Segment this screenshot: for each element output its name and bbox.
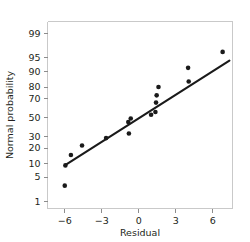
x-axis-tick-label: −3 <box>95 215 109 226</box>
plot-canvas: 15102030507080909599 −6−3036 Residual No… <box>0 0 250 242</box>
data-point <box>80 143 85 148</box>
x-axis-tick-label: 6 <box>210 215 216 226</box>
x-axis-tick-label: −6 <box>58 215 72 226</box>
y-axis-tick-label: 80 <box>28 81 40 92</box>
y-axis-tick-label: 50 <box>28 112 40 123</box>
data-point <box>128 116 133 121</box>
data-point <box>149 113 154 118</box>
normal-probability-plot-figure: 15102030507080909599 −6−3036 Residual No… <box>0 0 250 242</box>
data-point <box>69 153 74 158</box>
data-point <box>186 66 191 71</box>
y-axis-tick-label: 5 <box>34 171 40 182</box>
y-axis-tick-label: 20 <box>28 142 40 153</box>
x-axis-tick-label: 3 <box>173 215 179 226</box>
data-point <box>62 183 67 188</box>
x-axis-title: Residual <box>120 227 160 238</box>
x-axis-tick-label: 0 <box>136 215 142 226</box>
y-axis-tick-label: 1 <box>34 196 40 207</box>
y-axis-title: Normal probability <box>4 71 15 159</box>
y-axis-tick-label: 10 <box>28 158 40 169</box>
data-point <box>156 85 161 90</box>
data-point <box>220 50 225 55</box>
data-point <box>154 93 159 98</box>
data-point <box>153 110 158 115</box>
y-axis-tick-label: 70 <box>28 93 40 104</box>
y-axis-tick-label: 30 <box>28 131 40 142</box>
y-axis-tick-label: 95 <box>28 52 40 63</box>
data-point <box>154 100 159 105</box>
y-axis-tick-label: 99 <box>28 28 40 39</box>
data-point <box>186 79 191 84</box>
data-point <box>63 163 68 168</box>
data-point <box>127 131 132 136</box>
y-axis-tick-label: 90 <box>28 66 40 77</box>
data-point <box>104 136 109 141</box>
